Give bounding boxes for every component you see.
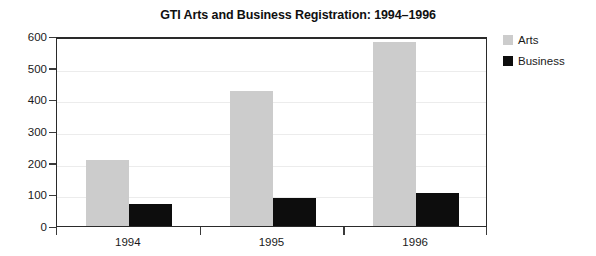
bar-arts-1996	[373, 42, 416, 226]
x-axis-label-1996: 1996	[343, 236, 487, 248]
legend-item-business[interactable]: Business	[503, 52, 593, 70]
y-axis: 0100200300400500600	[0, 37, 56, 227]
y-axis-tick-mark	[49, 132, 56, 133]
bar-arts-1994	[86, 160, 129, 227]
y-axis-tick-label: 500	[28, 62, 47, 76]
chart-title: GTI Arts and Business Registration: 1994…	[0, 8, 596, 22]
bar-business-1996	[416, 193, 459, 226]
y-axis-tick-label: 600	[28, 30, 47, 44]
x-axis-end-tick	[486, 227, 487, 235]
bar-group	[373, 39, 459, 226]
x-axis-separator	[343, 227, 344, 235]
x-axis: 199419951996	[56, 227, 487, 256]
x-axis-separator	[200, 227, 201, 235]
bar-group	[230, 39, 316, 226]
y-axis-tick-label: 200	[28, 157, 47, 171]
y-axis-tick-label: 300	[28, 125, 47, 139]
legend-item-arts[interactable]: Arts	[503, 31, 593, 49]
bar-group	[86, 39, 172, 226]
y-axis-tick-mark	[49, 37, 56, 38]
chart-container: GTI Arts and Business Registration: 1994…	[0, 0, 596, 256]
y-axis-tick-mark	[49, 195, 56, 196]
bar-business-1995	[273, 198, 316, 227]
bar-business-1994	[129, 204, 172, 226]
x-axis-label-1994: 1994	[56, 236, 200, 248]
bar-arts-1995	[230, 91, 273, 226]
y-axis-tick-mark	[49, 100, 56, 101]
y-axis-tick-label: 0	[41, 220, 47, 234]
x-axis-end-tick	[56, 227, 57, 235]
bars-layer	[57, 39, 486, 226]
y-axis-tick-label: 100	[28, 188, 47, 202]
chart-legend: ArtsBusiness	[503, 31, 593, 73]
legend-label-arts: Arts	[518, 34, 538, 46]
y-axis-tick-mark	[49, 68, 56, 69]
y-axis-tick-label: 400	[28, 93, 47, 107]
plot-area	[56, 37, 487, 227]
y-axis-tick-mark	[49, 227, 56, 228]
y-axis-tick-mark	[49, 163, 56, 164]
legend-swatch-business	[503, 56, 513, 66]
legend-swatch-arts	[503, 35, 513, 45]
x-axis-label-1995: 1995	[200, 236, 344, 248]
legend-label-business: Business	[518, 55, 565, 67]
